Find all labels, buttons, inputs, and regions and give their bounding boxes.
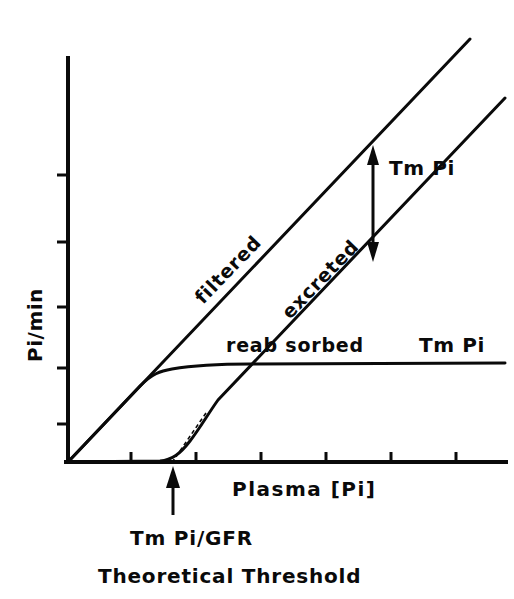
- threshold-up-arrow: [166, 466, 180, 515]
- annotation-threshold-line-1: Tm Pi/GFR: [130, 526, 253, 550]
- renal-pi-handling-chart: Pi/min Plasma [Pi] filtered excreted rea…: [0, 0, 514, 599]
- curve-reabsorbed: [68, 363, 505, 462]
- axes-group: [66, 58, 506, 462]
- curve-excreted: [68, 98, 505, 462]
- annotation-threshold-line-2: Theoretical Threshold: [98, 564, 361, 588]
- curve-label-filtered: filtered: [190, 231, 265, 308]
- curve-label-reabsorbed: reab sorbed: [226, 334, 364, 356]
- tm-pi-arrowhead-up: [367, 145, 379, 165]
- annotation-tm-pi-plateau: Tm Pi: [419, 333, 485, 357]
- tm-pi-arrowhead-down: [367, 242, 379, 262]
- x-axis-label: Plasma [Pi]: [232, 477, 377, 501]
- y-axis-label: Pi/min: [23, 288, 47, 362]
- figure-root: Pi/min Plasma [Pi] filtered excreted rea…: [0, 0, 514, 599]
- curve-label-excreted: excreted: [277, 235, 363, 323]
- threshold-arrowhead: [166, 466, 180, 488]
- tm-pi-gap-arrow: [367, 145, 379, 262]
- threshold-extrapolation-dashed: [173, 413, 206, 461]
- annotation-tm-pi-gap: Tm Pi: [389, 156, 455, 180]
